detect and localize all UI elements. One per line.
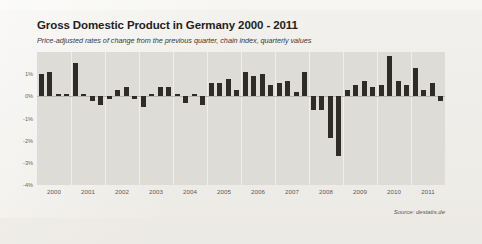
source-attribution: Source: destatis.de [394,209,445,215]
bar [166,87,171,96]
bar [285,81,290,97]
bar [336,96,341,156]
bar [438,96,443,100]
bar [158,87,163,96]
chart-page: Gross Domestic Product in Germany 2000 -… [0,0,482,244]
x-tick-label: 2003 [149,188,163,195]
bar [311,96,316,109]
year-gridline [173,52,174,185]
bar [319,96,324,109]
bar [353,85,358,96]
bar [115,90,120,97]
x-axis: 2000200120022003200420052006200720082009… [37,188,445,200]
bar [328,96,333,138]
bar [302,72,307,96]
bar [277,83,282,96]
x-tick-label: 2002 [115,188,129,195]
bar [294,92,299,96]
bar [226,79,231,97]
bar [132,96,137,98]
x-tick-label: 2008 [319,188,333,195]
bar [200,96,205,105]
y-tick-label: 0% [25,93,33,99]
bar [268,85,273,96]
bar [379,85,384,96]
page-subtitle: Price-adjusted rates of change from the … [37,36,311,45]
bar [107,96,112,98]
x-tick-label: 2001 [81,188,95,195]
bar [430,83,435,96]
bar [251,76,256,96]
bar [404,85,409,96]
y-axis: 1%0%-1%-2%-3%-4% [0,52,33,185]
year-gridline [343,52,344,185]
bar [124,87,129,96]
year-gridline [377,52,378,185]
bar [39,74,44,96]
bar [260,74,265,96]
y-tick-label: -3% [23,160,33,166]
bar [362,81,367,97]
page-edge-bottom [0,218,482,244]
bar [175,94,180,96]
bar [149,94,154,96]
x-tick-label: 2010 [387,188,401,195]
year-gridline [207,52,208,185]
bar [56,94,61,96]
x-tick-label: 2004 [183,188,197,195]
bar [183,96,188,103]
x-tick-label: 2006 [251,188,265,195]
year-gridline [139,52,140,185]
year-gridline [275,52,276,185]
bar [73,63,78,96]
y-tick-label: -4% [23,182,33,188]
gdp-bar-chart [37,52,445,185]
x-tick-label: 2011 [421,188,434,195]
bar [234,90,239,97]
x-tick-label: 2009 [353,188,367,195]
bar [64,94,69,96]
x-tick-label: 2005 [217,188,231,195]
bar [209,83,214,96]
page-title: Gross Domestic Product in Germany 2000 -… [37,19,298,31]
bar [81,94,86,96]
page-edge-top [0,0,482,10]
year-gridline [105,52,106,185]
x-tick-label: 2000 [47,188,61,195]
bar [345,90,350,97]
bar [141,96,146,107]
plot-area [37,52,445,185]
bar [98,96,103,105]
year-gridline [309,52,310,185]
bar [387,56,392,96]
y-tick-label: 1% [25,71,33,77]
bar [396,81,401,97]
bar [243,72,248,96]
bar [217,83,222,96]
bar [47,72,52,96]
y-tick-label: -2% [23,138,33,144]
bar [421,90,426,97]
bar [413,68,418,97]
bar [90,96,95,100]
bar [192,94,197,96]
x-tick-label: 2007 [285,188,299,195]
y-tick-label: -1% [23,116,33,122]
bar [370,87,375,96]
